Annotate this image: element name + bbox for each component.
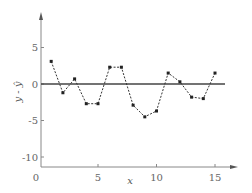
data-point [97,102,100,105]
data-point [178,80,181,83]
series-group [50,60,217,118]
x-tick-label: 10 [150,172,163,183]
data-point [202,97,205,100]
y-axis-label: y - ŷ [12,81,23,103]
x-tick-label: 0 [33,172,39,183]
axes [39,12,238,169]
data-point [50,60,53,63]
data-point [155,110,158,113]
data-point [108,66,111,69]
x-tick-label: 15 [209,172,222,183]
data-point [214,72,217,75]
y-tick-label: 5 [32,42,38,53]
x-tick-label: 5 [95,172,101,183]
data-point [143,115,146,118]
series-line [51,61,215,116]
data-point [85,102,88,105]
y-axis-arrow-icon [39,12,43,20]
x-axis-label: x [127,175,133,186]
residual-chart: 05101550-5-10 x y - ŷ [0,0,252,193]
y-tick-label: -10 [22,152,38,163]
data-point [61,91,64,94]
data-point [190,96,193,99]
y-tick-label: 0 [32,79,38,90]
x-axis-arrow-icon [230,165,238,169]
data-point [73,77,76,80]
y-tick-label: -5 [28,115,38,126]
data-point [132,104,135,107]
data-point [167,72,170,75]
data-point [120,66,123,69]
